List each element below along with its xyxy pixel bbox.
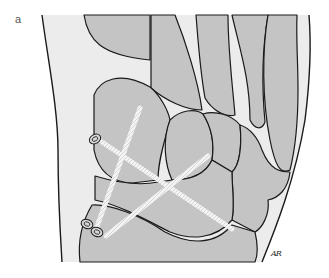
artist-signature: AR <box>271 249 281 258</box>
foot-illustration <box>0 0 329 278</box>
